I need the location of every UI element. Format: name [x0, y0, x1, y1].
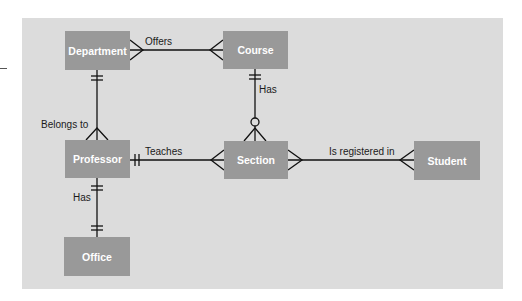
label-belongs-to: Belongs to: [41, 119, 88, 130]
entity-office[interactable]: Office: [64, 237, 130, 276]
belongs-to-connector: [86, 70, 108, 140]
entity-department[interactable]: Department: [65, 31, 130, 70]
label-teaches: Teaches: [145, 146, 182, 157]
entity-professor[interactable]: Professor: [65, 140, 130, 178]
professor-has-connector: [91, 178, 103, 237]
entity-course[interactable]: Course: [223, 31, 288, 69]
offers-connector: [130, 40, 223, 60]
label-offers: Offers: [145, 36, 172, 47]
zero-circle-icon: [251, 118, 259, 126]
entity-student[interactable]: Student: [414, 141, 480, 180]
label-is-registered-in: Is registered in: [329, 146, 395, 157]
label-professor-has: Has: [73, 192, 91, 203]
entity-section[interactable]: Section: [224, 141, 288, 179]
label-course-has: Has: [259, 84, 277, 95]
course-has-connector: [244, 69, 266, 141]
